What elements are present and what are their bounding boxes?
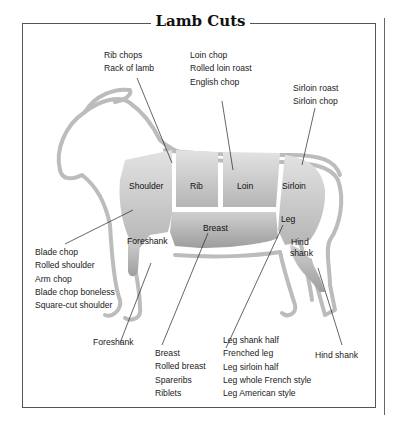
callout-breast: Breast Rolled breast Spareribs Riblets bbox=[155, 347, 206, 400]
cut-label-foreshank: Foreshank bbox=[127, 236, 168, 246]
callout-loin: Loin chop Rolled loin roast English chop bbox=[190, 49, 252, 89]
cut-label-loin: Loin bbox=[237, 181, 253, 191]
callout-shoulder: Blade chop Rolled shoulder Arm chop Blad… bbox=[35, 246, 115, 312]
shoulder-region bbox=[119, 150, 172, 250]
cut-label-sirloin: Sirloin bbox=[282, 181, 306, 191]
cut-label-leg: Leg bbox=[281, 214, 295, 224]
sirloin-leg-region bbox=[278, 155, 325, 245]
callout-foreshank: Foreshank bbox=[93, 336, 134, 349]
callout-hind-shank: Hind shank bbox=[315, 349, 358, 362]
callout-rib: Rib chops Rack of lamb bbox=[104, 49, 154, 76]
cut-label-shoulder: Shoulder bbox=[129, 181, 163, 191]
callout-sirloin: Sirloin roast Sirloin chop bbox=[293, 82, 338, 109]
cut-label-hind: Hind bbox=[291, 237, 309, 247]
cut-label-shank: shank bbox=[290, 248, 313, 258]
rib-region bbox=[176, 150, 218, 207]
cut-label-breast: Breast bbox=[203, 223, 228, 233]
cut-label-rib: Rib bbox=[190, 181, 203, 191]
callout-leg: Leg shank half Frenched leg Leg sirloin … bbox=[223, 334, 311, 400]
